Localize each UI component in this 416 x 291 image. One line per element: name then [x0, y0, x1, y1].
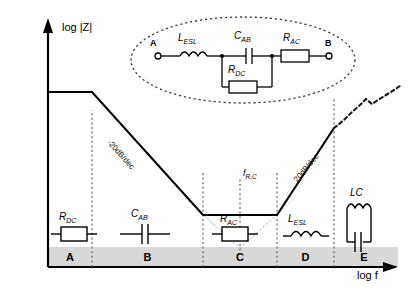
inset-rac-label: RAC	[283, 32, 300, 45]
resistor-rac-symbol	[272, 50, 326, 62]
zone-letter-e: E	[334, 251, 394, 263]
zone-b-symbol-label: CAB	[131, 208, 148, 221]
zone-b-capacitor-symbol	[120, 224, 170, 244]
zone-letter-d: D	[277, 251, 334, 263]
x-axis-label: log f	[357, 269, 378, 281]
zone-letter-b: B	[92, 251, 203, 263]
hf-resonance-trace	[334, 86, 400, 128]
zone-d-symbol-label: LESL	[288, 213, 307, 226]
impedance-bode-diagram: log |Z| log f -20dB/dec 20dB/dec fR,C LE…	[0, 0, 416, 291]
zone-letter-a: A	[48, 251, 92, 263]
zone-c-resistor-symbol	[212, 227, 258, 241]
zone-a-symbol-label: RDC	[59, 211, 76, 224]
capacitor-cab-symbol	[222, 48, 272, 64]
terminal-a-node	[155, 53, 161, 59]
zone-d-inductor-symbol	[283, 232, 329, 237]
zone-e-symbol-label: LC	[350, 187, 363, 198]
inset-terminal-b-label: B	[325, 38, 332, 48]
y-axis-label: log |Z|	[62, 21, 92, 33]
zone-a-resistor-symbol	[51, 227, 97, 241]
inductor-lesl-symbol	[180, 52, 207, 56]
inset-cab-label: CAB	[234, 30, 251, 43]
zone-c-symbol-label: RAC	[220, 213, 237, 226]
resonance-frequency-label: fR,C	[243, 168, 257, 180]
zone-e-lc-tank-symbol	[347, 204, 371, 252]
inset-lesl-label: LESL	[178, 32, 197, 45]
y-axis-arrow	[43, 18, 53, 33]
diagram-canvas	[0, 0, 416, 291]
inset-terminal-a-label: A	[150, 38, 157, 48]
inset-rdc-label: RDC	[228, 64, 245, 77]
impedance-curve	[48, 92, 334, 215]
zone-letter-c: C	[203, 251, 277, 263]
terminal-b-node	[326, 53, 332, 59]
